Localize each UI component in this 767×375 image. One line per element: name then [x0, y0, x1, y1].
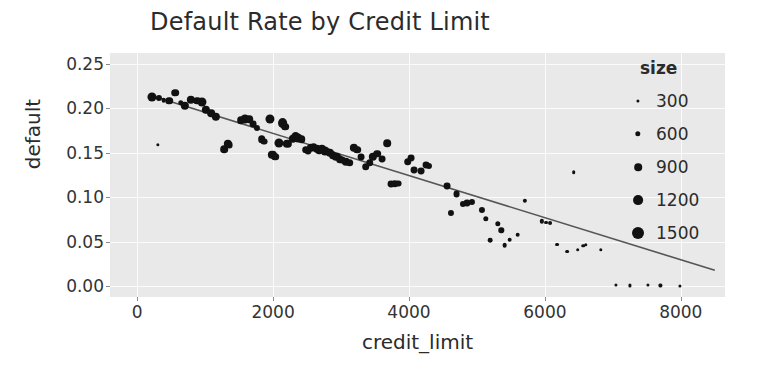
scatter-point	[628, 284, 631, 287]
scatter-point	[678, 284, 681, 287]
scatter-point	[515, 232, 520, 237]
legend-marker	[635, 131, 640, 136]
scatter-point	[384, 140, 392, 148]
x-tick-label: 2000	[233, 302, 313, 322]
legend-title: size	[640, 58, 677, 78]
scatter-point	[346, 159, 354, 167]
scatter-point	[507, 237, 512, 242]
scatter-point	[147, 92, 156, 101]
y-axis-label: default	[21, 39, 45, 229]
scatter-point	[408, 155, 415, 162]
scatter-point	[274, 138, 283, 147]
scatter-point	[378, 156, 385, 163]
x-tick-label: 6000	[505, 302, 585, 322]
legend-marker	[636, 99, 639, 102]
legend-label: 1200	[656, 187, 699, 213]
scatter-point	[226, 142, 233, 149]
scatter-point	[599, 248, 602, 251]
scatter-point	[502, 243, 507, 248]
scatter-point	[298, 136, 306, 144]
scatter-point	[488, 238, 493, 243]
y-tick-mark	[106, 108, 110, 109]
scatter-point	[254, 125, 260, 131]
y-tick-mark	[106, 242, 110, 243]
scatter-point	[448, 210, 454, 216]
scatter-point	[212, 113, 220, 121]
x-axis-ticks: 02000400060008000	[110, 302, 725, 326]
y-tick-label: 0.20	[40, 98, 104, 118]
scatter-point	[418, 168, 425, 175]
scatter-point	[165, 97, 173, 105]
y-tick-label: 0.05	[40, 232, 104, 252]
legend-entry: 900	[612, 154, 762, 180]
y-tick-mark	[106, 286, 110, 287]
scatter-point	[584, 243, 588, 247]
scatter-point	[395, 180, 402, 187]
scatter-point	[468, 199, 474, 205]
x-tick-label: 4000	[369, 302, 449, 322]
legend-entry: 300	[612, 88, 762, 114]
x-tick-mark	[137, 297, 138, 301]
figure-canvas: Default Rate by Credit Limit 0.000.050.1…	[0, 0, 767, 375]
scatter-point	[565, 250, 569, 254]
scatter-point	[522, 199, 526, 203]
x-tick-label: 0	[97, 302, 177, 322]
scatter-point	[171, 89, 179, 97]
legend-label: 600	[656, 121, 688, 147]
legend-entry: 1200	[612, 187, 762, 213]
scatter-point	[647, 284, 650, 287]
scatter-point	[426, 163, 432, 169]
scatter-point	[659, 284, 662, 287]
scatter-point	[156, 144, 159, 147]
x-tick-mark	[545, 297, 546, 301]
x-tick-label: 8000	[641, 302, 721, 322]
scatter-point	[615, 283, 618, 286]
legend-entry: 600	[612, 121, 762, 147]
x-tick-mark	[409, 297, 410, 301]
x-tick-mark	[681, 297, 682, 301]
scatter-point	[555, 243, 559, 247]
y-tick-mark	[106, 64, 110, 65]
scatter-point	[358, 153, 365, 160]
scatter-point	[499, 227, 504, 232]
y-tick-label: 0.25	[40, 54, 104, 74]
y-tick-label: 0.15	[40, 143, 104, 163]
legend-marker	[632, 227, 644, 239]
legend-label: 1500	[656, 220, 699, 246]
scatter-point	[483, 216, 488, 221]
scatter-point	[281, 123, 289, 131]
y-tick-label: 0.10	[40, 187, 104, 207]
scatter-point	[576, 248, 580, 252]
legend-entry: 1500	[612, 220, 762, 246]
scatter-point	[354, 146, 362, 154]
scatter-point	[261, 138, 268, 145]
legend-marker	[633, 195, 643, 205]
y-tick-label: 0.00	[40, 276, 104, 296]
scatter-point	[572, 171, 576, 175]
legend-label: 300	[656, 88, 688, 114]
legend-label: 900	[656, 154, 688, 180]
scatter-point	[271, 153, 279, 161]
scatter-point	[548, 221, 552, 225]
scatter-point	[265, 114, 274, 123]
chart-title: Default Rate by Credit Limit	[0, 8, 640, 36]
scatter-point	[453, 190, 460, 197]
x-tick-mark	[273, 297, 274, 301]
y-tick-mark	[106, 153, 110, 154]
scatter-point	[495, 221, 500, 226]
scatter-point	[479, 207, 485, 213]
legend-marker	[634, 163, 642, 171]
y-tick-mark	[106, 197, 110, 198]
size-legend: size 30060090012001500	[612, 58, 762, 258]
x-axis-label: credit_limit	[110, 330, 725, 354]
scatter-point	[444, 182, 451, 189]
